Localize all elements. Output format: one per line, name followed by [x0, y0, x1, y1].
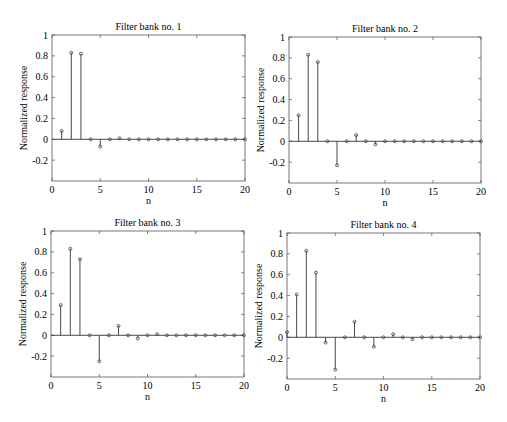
x-tick-label: 20: [475, 382, 485, 393]
x-tick-label: 0: [49, 380, 54, 391]
x-axis-label: n: [145, 391, 150, 402]
y-tick-label: 0.4: [271, 290, 284, 301]
y-tick-label: 0.6: [273, 73, 286, 84]
x-tick-label: 5: [97, 380, 102, 391]
y-axis-label: Normalized response: [253, 263, 264, 348]
y-tick-label: -0.2: [32, 155, 48, 166]
y-tick-label: 0.2: [273, 115, 286, 126]
x-tick-label: 10: [144, 184, 154, 195]
y-tick-label: 0: [42, 330, 47, 341]
x-axis-label: n: [383, 197, 388, 208]
y-tick-label: 0.6: [35, 267, 48, 278]
x-tick-label: 20: [239, 380, 249, 391]
y-tick-label: 1: [280, 32, 285, 43]
y-tick-label: -0.2: [269, 157, 285, 168]
y-tick-label: 0: [278, 332, 283, 343]
y-tick-label: 0.4: [35, 288, 48, 299]
x-axis-label: n: [381, 393, 386, 404]
y-tick-label: 1: [42, 226, 47, 237]
subplot-filter-bank-4: Filter bank no. 4 n Normalized response …: [253, 219, 485, 404]
subplot-filter-bank-3: Filter bank no. 3 n Normalized response …: [17, 217, 249, 402]
y-tick-label: 0.4: [273, 94, 286, 105]
x-tick-label: 15: [427, 382, 437, 393]
x-axis-label: n: [146, 195, 151, 206]
y-tick-label: -0.2: [31, 351, 47, 362]
subplot-title: Filter bank no. 2: [352, 23, 418, 34]
x-tick-label: 15: [428, 186, 438, 197]
x-tick-label: 0: [285, 382, 290, 393]
subplot-filter-bank-2: Filter bank no. 2 n Normalized response …: [255, 23, 486, 208]
y-tick-label: 0.8: [271, 248, 284, 259]
x-tick-label: 10: [379, 382, 389, 393]
y-tick-label: 0.8: [273, 52, 286, 63]
subplot-filter-bank-1: Filter bank no. 1 n Normalized response …: [18, 21, 250, 206]
y-tick-label: 0.2: [36, 113, 49, 124]
subplot-title: Filter bank no. 4: [350, 219, 416, 230]
x-tick-label: 0: [50, 184, 55, 195]
y-tick-label: 0.6: [36, 71, 49, 82]
y-axis-label: Normalized response: [255, 67, 266, 152]
y-axis-label: Normalized response: [17, 261, 28, 346]
x-tick-label: 10: [380, 186, 390, 197]
x-tick-label: 5: [335, 186, 340, 197]
y-tick-label: 1: [278, 228, 283, 239]
x-tick-label: 20: [240, 184, 250, 195]
y-tick-label: 0.8: [35, 246, 48, 257]
x-tick-label: 0: [287, 186, 292, 197]
figure: Filter bank no. 1 n Normalized response …: [0, 0, 507, 422]
x-tick-label: 5: [98, 184, 103, 195]
y-tick-label: 0: [280, 136, 285, 147]
y-tick-label: 0.2: [35, 309, 48, 320]
y-tick-label: 1: [43, 30, 48, 41]
y-tick-label: 0.8: [36, 50, 49, 61]
y-axis-label: Normalized response: [18, 65, 29, 150]
y-tick-label: 0: [43, 134, 48, 145]
y-tick-label: 0.4: [36, 92, 49, 103]
x-tick-label: 10: [143, 380, 153, 391]
y-tick-label: -0.2: [267, 353, 283, 364]
subplot-title: Filter bank no. 1: [115, 21, 181, 32]
y-tick-label: 0.2: [271, 311, 284, 322]
x-tick-label: 15: [192, 184, 202, 195]
x-tick-label: 20: [476, 186, 486, 197]
subplot-title: Filter bank no. 3: [114, 217, 180, 228]
x-tick-label: 15: [191, 380, 201, 391]
y-tick-label: 0.6: [271, 269, 284, 280]
x-tick-label: 5: [333, 382, 338, 393]
